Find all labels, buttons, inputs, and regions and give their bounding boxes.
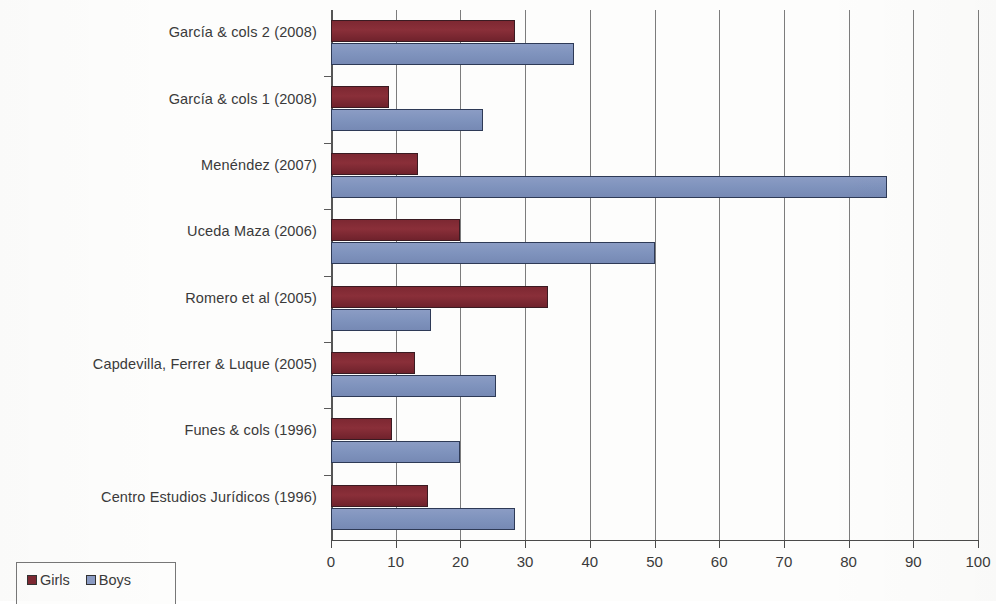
x-axis-tick-20	[460, 541, 461, 548]
legend-swatch-girls-icon	[27, 575, 37, 585]
bar-boys-3	[331, 242, 655, 264]
x-axis-tick-50	[655, 541, 656, 548]
x-axis-tick-label-90: 90	[889, 553, 937, 570]
bar-boys-1	[331, 109, 483, 131]
bar-boys-4	[331, 309, 431, 331]
gridline-100	[978, 10, 979, 541]
category-label-2: Menéndez (2007)	[0, 158, 317, 174]
gridline-20	[460, 10, 461, 541]
gridline-50	[655, 10, 656, 541]
x-axis-tick-10	[396, 541, 397, 548]
x-axis-tick-30	[525, 541, 526, 548]
category-label-1: García & cols 1 (2008)	[0, 92, 317, 108]
category-label-6: Funes & cols (1996)	[0, 423, 317, 439]
bar-girls-3	[331, 219, 460, 241]
x-axis-tick-label-70: 70	[760, 553, 808, 570]
category-label-7: Centro Estudios Jurídicos (1996)	[0, 490, 317, 506]
x-axis-tick-80	[849, 541, 850, 548]
category-label-3: Uceda Maza (2006)	[0, 224, 317, 240]
legend-label-boys: Boys	[99, 572, 131, 588]
plot-area	[331, 10, 978, 541]
x-axis-tick-90	[913, 541, 914, 548]
bar-girls-6	[331, 418, 392, 440]
legend-item-girls: Girls	[27, 572, 70, 588]
category-label-0: García & cols 2 (2008)	[0, 25, 317, 41]
gridline-30	[525, 10, 526, 541]
bar-girls-5	[331, 352, 415, 374]
bar-girls-2	[331, 153, 418, 175]
x-axis-tick-label-30: 30	[501, 553, 549, 570]
y-axis-tick-3	[324, 209, 332, 210]
x-axis-tick-0	[331, 541, 332, 548]
legend-label-girls: Girls	[40, 572, 70, 588]
y-axis-tick-1	[324, 76, 332, 77]
legend-swatch-boys-icon	[86, 575, 96, 585]
bar-girls-4	[331, 286, 548, 308]
x-axis-tick-label-100: 100	[954, 553, 996, 570]
x-axis-tick-40	[590, 541, 591, 548]
bar-boys-5	[331, 375, 496, 397]
gridline-90	[913, 10, 914, 541]
bar-girls-1	[331, 86, 389, 108]
x-axis-tick-60	[719, 541, 720, 548]
y-axis-tick-5	[324, 342, 332, 343]
y-axis-tick-6	[324, 408, 332, 409]
category-label-4: Romero et al (2005)	[0, 291, 317, 307]
bar-girls-7	[331, 485, 428, 507]
x-axis-tick-label-50: 50	[631, 553, 679, 570]
x-axis-tick-label-40: 40	[566, 553, 614, 570]
bar-boys-2	[331, 176, 887, 198]
bar-boys-6	[331, 441, 460, 463]
category-label-5: Capdevilla, Ferrer & Luque (2005)	[0, 357, 317, 373]
x-axis-tick-70	[784, 541, 785, 548]
x-axis-tick-label-0: 0	[307, 553, 355, 570]
y-axis-tick-4	[324, 276, 332, 277]
y-axis-tick-7	[324, 475, 332, 476]
x-axis-tick-label-60: 60	[695, 553, 743, 570]
y-axis-tick-2	[324, 143, 332, 144]
bar-girls-0	[331, 20, 515, 42]
legend: GirlsBoys	[16, 562, 176, 604]
gridline-60	[719, 10, 720, 541]
gridline-40	[590, 10, 591, 541]
bar-boys-0	[331, 43, 574, 65]
gridline-70	[784, 10, 785, 541]
category-axis-labels: García & cols 2 (2008)García & cols 1 (2…	[0, 10, 326, 541]
x-axis-tick-label-80: 80	[825, 553, 873, 570]
x-axis-tick-label-20: 20	[436, 553, 484, 570]
legend-item-boys: Boys	[86, 572, 131, 588]
gridline-80	[849, 10, 850, 541]
x-axis-tick-100	[978, 541, 979, 548]
x-axis-tick-label-10: 10	[372, 553, 420, 570]
bar-boys-7	[331, 508, 515, 530]
